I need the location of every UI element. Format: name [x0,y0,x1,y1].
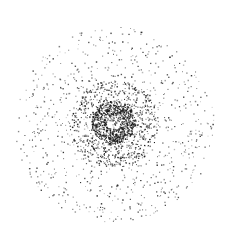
stipple-scatter-plot [0,0,228,231]
scatter-points [16,27,214,222]
